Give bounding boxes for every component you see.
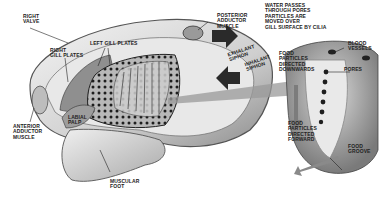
label-left-gill-plates: LEFT GILL PLATES bbox=[90, 41, 138, 46]
label-food-groove: FOOD GROOVE bbox=[348, 144, 371, 155]
label-food-forward: FOOD PARTICLES DIRECTED FORWARD bbox=[288, 121, 317, 143]
blood-vessel bbox=[328, 50, 336, 55]
label-right-gill-plates: RIGHT GILL PLATES bbox=[50, 48, 83, 59]
leader-anterior bbox=[30, 108, 34, 122]
label-muscular-foot: MUSCULAR FOOT bbox=[110, 179, 139, 190]
anterior-adductor-muscle bbox=[32, 86, 48, 114]
label-pores: PORES bbox=[344, 67, 362, 72]
label-right-valve: RIGHT VALVE bbox=[23, 14, 39, 25]
label-food-downwards: FOOD PARTICLES DIRECTED DOWNWARDS bbox=[279, 51, 314, 73]
label-blood-vessels: BLOOD VESSELS bbox=[348, 41, 372, 52]
label-labial-palp: LABIAL PALP bbox=[68, 115, 87, 126]
muscular-foot bbox=[62, 129, 165, 181]
label-water-passes: WATER PASSES THROUGH PORES PARTICLES ARE… bbox=[265, 3, 326, 30]
label-posterior-adductor: POSTERIOR ADDUCTOR MUSCLE bbox=[217, 13, 247, 29]
leader-right-valve bbox=[30, 28, 68, 43]
diagram-artwork bbox=[0, 0, 383, 201]
clam-diagram: RIGHT VALVE RIGHT GILL PLATES LEFT GILL … bbox=[0, 0, 383, 201]
label-anterior-adductor: ANTERIOR ADDUCTOR MUSCLE bbox=[13, 124, 42, 140]
blood-vessel bbox=[362, 56, 370, 61]
